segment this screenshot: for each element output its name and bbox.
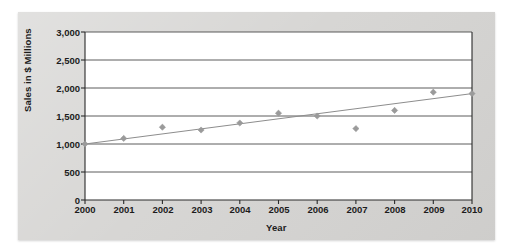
chart-figure: Sales in $ Millions Year 3,000 2,500 2,0… bbox=[0, 0, 510, 252]
plot-area bbox=[0, 0, 510, 252]
